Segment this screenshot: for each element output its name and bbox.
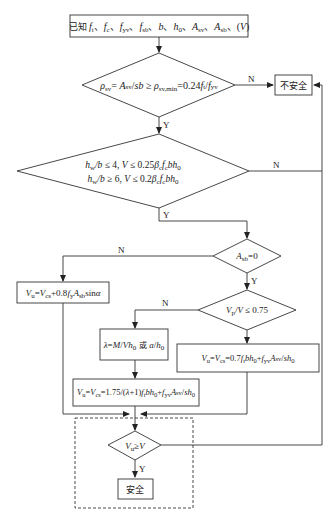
flowchart-canvas: 已知 ft、fc、fyv、fsb、b、h0、Asv、Asb、(V) ρsv= A…: [0, 0, 335, 523]
unsafe-label: 不安全: [280, 80, 307, 91]
section-check-diamond: [17, 134, 249, 208]
edge-label-n1: N: [248, 74, 255, 84]
edge-label-y-final: Y: [139, 464, 146, 474]
edge-label-n3: N: [118, 245, 125, 255]
edge-label-y3: Y: [251, 276, 258, 286]
edge-label-n2: N: [273, 160, 280, 170]
vu-general-label: Vu=Vcs=0.7ftbh0+fyvAsv/sh0: [201, 353, 294, 364]
edge-label-y1: Y: [163, 120, 170, 130]
edge-label-n4: N: [162, 298, 169, 308]
edge-label-y2: Y: [163, 210, 170, 220]
safe-label: 安全: [126, 484, 144, 495]
